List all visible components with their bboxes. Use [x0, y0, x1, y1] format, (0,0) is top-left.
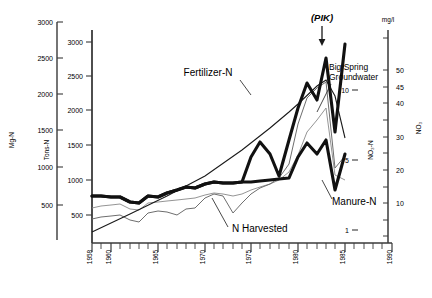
no3-tick-30: 30 — [396, 134, 404, 141]
axis-tonsn — [86, 30, 92, 243]
xtick-1975: 1975 — [245, 249, 252, 264]
mgn-tick-1000: 1000 — [37, 164, 53, 171]
xtick-1965: 1965 — [152, 249, 159, 264]
chart-svg: 3000 2500 2000 1500 1000 500 Mg-N 3000 2… — [0, 0, 432, 298]
mgn-tick-2000: 2000 — [37, 91, 53, 98]
xtick-1990: 1990 — [386, 249, 393, 264]
mgn-tick-500: 500 — [41, 202, 53, 209]
groundwater-label-1: Big Spring — [329, 62, 368, 72]
pik-label: (PIK) — [311, 12, 333, 23]
axis-mgn — [57, 22, 63, 240]
axis-unit-mgl: mg/l — [382, 16, 395, 24]
axis-label-no3n: NO₃-N — [367, 140, 374, 160]
no3-tick-20: 20 — [396, 167, 404, 174]
annotation-fertilizer: Fertilizer-N — [184, 67, 251, 95]
no3-tick-40: 40 — [396, 100, 404, 107]
axis-label-no3: NO₃ — [415, 121, 422, 134]
tonsn-tick-2000: 2000 — [67, 107, 83, 114]
no3-tick-45: 45 — [396, 84, 404, 91]
annotation-harvested: N Harvested — [212, 198, 288, 234]
fertilizer-label: Fertilizer-N — [184, 67, 233, 78]
mgn-tick-1500: 1500 — [37, 127, 53, 134]
no3n-tick-10: 10 — [341, 87, 349, 94]
axis-label-mgn: Mg-N — [8, 132, 16, 148]
xtick-1960: 1960 — [105, 249, 112, 264]
groundwater-label-2: Groundwater — [329, 72, 378, 82]
mgn-tick-3000: 3000 — [37, 19, 53, 26]
tonsn-tick-3000: 3000 — [67, 39, 83, 46]
harvested-label: N Harvested — [232, 223, 288, 234]
no3n-tick-1: 1 — [345, 227, 349, 234]
chart-figure: 3000 2500 2000 1500 1000 500 Mg-N 3000 2… — [0, 0, 432, 298]
axis-no3 — [383, 30, 388, 243]
tonsn-tick-2500: 2500 — [67, 73, 83, 80]
xtick-1970: 1970 — [199, 249, 206, 264]
xtick-1958: 1958 — [86, 249, 93, 264]
tonsn-tick-500: 500 — [71, 212, 83, 219]
xtick-1980: 1980 — [292, 249, 299, 264]
annotation-pik: (PIK) — [311, 12, 333, 46]
no3n-tick-5: 5 — [345, 157, 349, 164]
annotation-manure: Manure-N — [322, 180, 376, 207]
tonsn-tick-1500: 1500 — [67, 142, 83, 149]
axis-x — [92, 243, 392, 252]
manure-label: Manure-N — [332, 196, 376, 207]
axis-label-tonsn: Tons-N — [43, 139, 50, 160]
tonsn-tick-1000: 1000 — [67, 177, 83, 184]
no3-tick-10: 10 — [396, 200, 404, 207]
no3-tick-50: 50 — [396, 67, 404, 74]
axis-no3n — [352, 90, 358, 235]
mgn-tick-2500: 2500 — [37, 55, 53, 62]
xtick-1985: 1985 — [339, 249, 346, 264]
